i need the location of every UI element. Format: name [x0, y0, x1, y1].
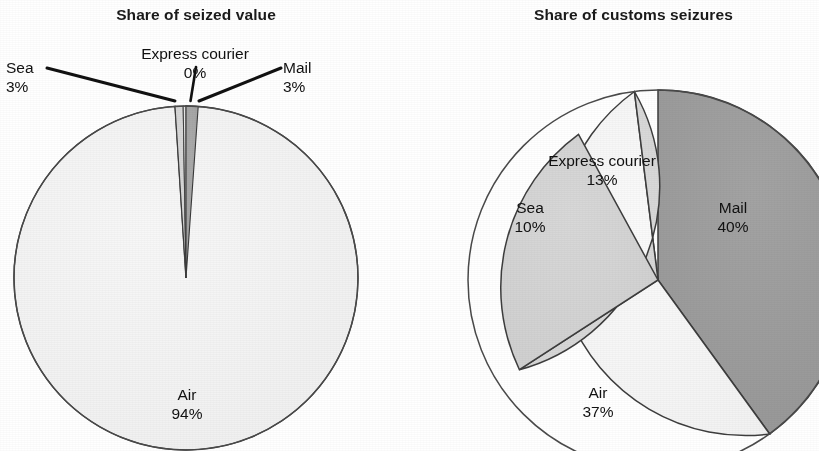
pie-label-express-courier: Express courier 13%	[540, 151, 664, 189]
chart-panel-seized-value: Share of seized value	[0, 0, 440, 451]
chart-panel-customs-seizures: Share of customs seizures	[440, 0, 819, 451]
pie-label-mail: Mail 40%	[706, 198, 760, 236]
pie-chart-customs-seizures	[440, 0, 819, 451]
pie-label-sea: Sea 10%	[502, 198, 558, 236]
pie-label-air: Air 94%	[148, 385, 226, 423]
pie-label-mail: Mail 3%	[283, 58, 311, 96]
pie-label-express-courier: Express courier 0%	[128, 44, 262, 82]
figure-two-pie-charts: Share of seized value	[0, 0, 819, 451]
pie-label-sea: Sea 3%	[6, 58, 34, 96]
pie-label-air: Air 37%	[568, 383, 628, 421]
